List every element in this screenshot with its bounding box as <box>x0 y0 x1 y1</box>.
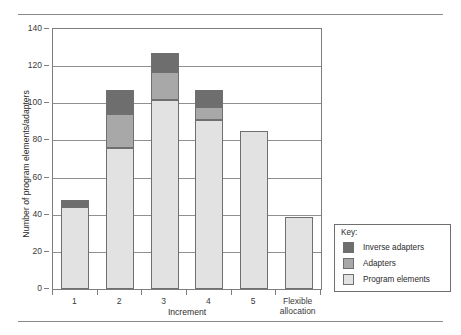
bar-segment[interactable] <box>195 90 223 107</box>
bar-segment[interactable] <box>151 53 179 72</box>
x-tick-label-line: Flexible <box>268 296 328 306</box>
x-tick-mark <box>275 290 276 295</box>
y-tick-label: 140 <box>28 24 42 33</box>
x-tick-mark <box>97 290 98 295</box>
y-axis-title: Number of program elements/adapters <box>21 54 31 274</box>
bar-segment[interactable] <box>61 207 89 289</box>
legend: Key: Inverse adaptersAdaptersProgram ele… <box>334 224 451 292</box>
bar-segment[interactable] <box>195 120 223 289</box>
x-tick-mark <box>52 290 53 295</box>
bar-segment[interactable] <box>61 200 89 207</box>
y-tick-label: 80 <box>33 135 42 144</box>
y-tick-mark <box>44 102 49 103</box>
y-tick-label: 40 <box>33 209 42 218</box>
y-tick-mark <box>44 139 49 140</box>
legend-label: Inverse adapters <box>363 243 424 253</box>
bar-segment[interactable] <box>151 100 179 289</box>
legend-swatch <box>343 258 354 269</box>
y-tick-label: 0 <box>37 284 42 293</box>
legend-swatch <box>343 242 354 253</box>
bar-segment[interactable] <box>195 107 223 120</box>
bar-segment[interactable] <box>106 90 134 114</box>
y-tick-mark <box>44 177 49 178</box>
x-tick-mark <box>320 290 321 295</box>
gridline <box>53 66 321 67</box>
legend-label: Program elements <box>363 275 430 285</box>
x-tick-mark <box>141 290 142 295</box>
y-tick-mark <box>44 251 49 252</box>
y-tick-mark <box>44 288 49 289</box>
bar-segment[interactable] <box>151 72 179 100</box>
y-tick-mark <box>44 65 49 66</box>
gridline <box>53 252 321 253</box>
gridline <box>53 140 321 141</box>
top-divider-rule <box>18 14 443 15</box>
y-tick-mark <box>44 214 49 215</box>
x-tick-mark <box>186 290 187 295</box>
gridline <box>53 103 321 104</box>
bar-group[interactable] <box>240 29 268 289</box>
plot-area <box>52 28 322 290</box>
y-tick-label: 20 <box>33 247 42 256</box>
x-tick-mark <box>231 290 232 295</box>
gridline <box>53 178 321 179</box>
legend-label: Adapters <box>363 259 396 269</box>
bar-segment[interactable] <box>285 217 313 289</box>
bar-segment[interactable] <box>240 131 268 289</box>
bar-group[interactable] <box>195 29 223 289</box>
y-tick-mark <box>44 28 49 29</box>
legend-swatch <box>343 274 354 285</box>
gridline <box>53 215 321 216</box>
figure: 020406080100120140 Number of program ele… <box>0 0 461 335</box>
bar-segment[interactable] <box>106 148 134 289</box>
bottom-divider-rule <box>18 321 443 322</box>
bar-group[interactable] <box>151 29 179 289</box>
bar-group[interactable] <box>61 29 89 289</box>
y-tick-label: 60 <box>33 172 42 181</box>
bar-segment[interactable] <box>106 114 134 147</box>
bar-group[interactable] <box>106 29 134 289</box>
legend-title: Key: <box>341 228 357 237</box>
bar-group[interactable] <box>285 29 313 289</box>
x-axis-title: Increment <box>52 307 322 317</box>
